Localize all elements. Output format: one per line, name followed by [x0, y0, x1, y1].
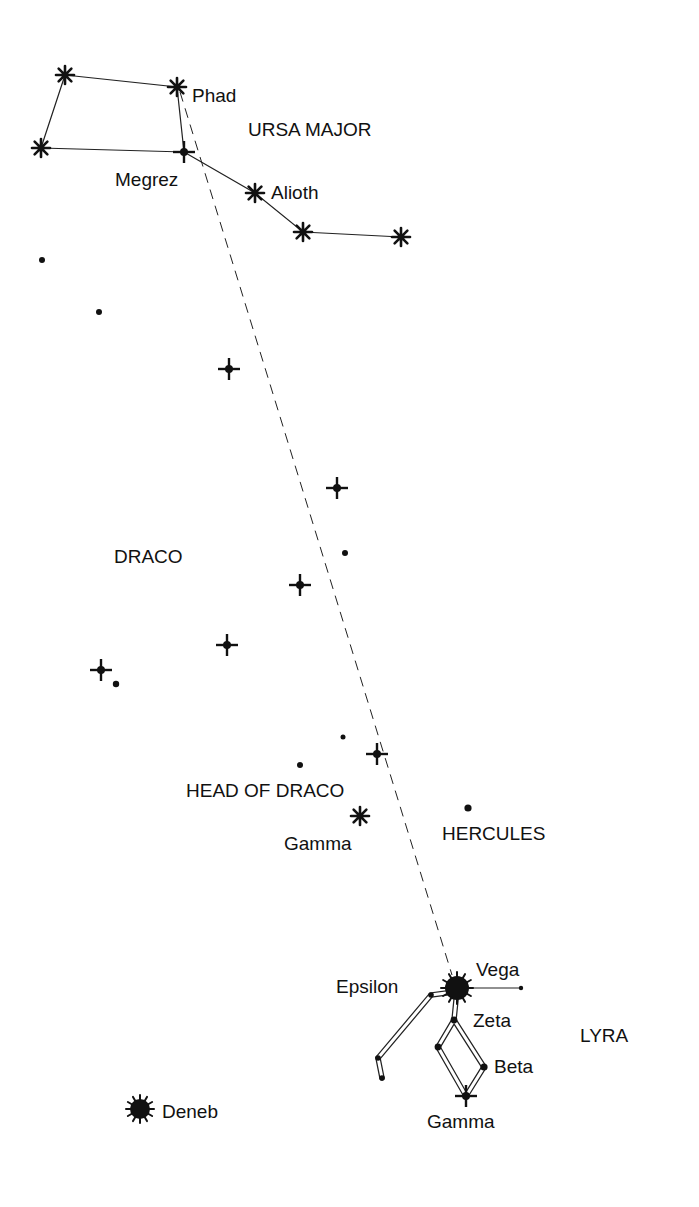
- asterisk-stars: [32, 66, 410, 825]
- label-beta: Beta: [494, 1056, 534, 1077]
- label-vega: Vega: [476, 959, 520, 980]
- hercules-dot-star-icon: [464, 804, 471, 811]
- draco-star-a-star-icon: [218, 358, 240, 380]
- phad-star-icon: [168, 78, 186, 96]
- label-epsilon: Epsilon: [336, 976, 398, 997]
- label-lyra: LYRA: [580, 1025, 629, 1046]
- dot-2-star-icon: [96, 309, 102, 315]
- dot-4-star-icon: [113, 681, 119, 687]
- deneb-star-icon: [126, 1095, 154, 1123]
- label-phad: Phad: [192, 85, 236, 106]
- lyra-delta-dot-star-icon: [435, 1044, 442, 1051]
- epsilon-dot-star-icon: [428, 992, 434, 998]
- ursa-major-star-6-star-icon: [294, 223, 312, 241]
- lyra-east-dot-star-icon: [519, 986, 523, 990]
- megrez-star-icon: [173, 141, 195, 163]
- ursa-major-star-1-star-icon: [56, 66, 74, 84]
- ursa-major-star-3-star-icon: [32, 139, 50, 157]
- label-draco: DRACO: [114, 546, 183, 567]
- alioth-star-icon: [246, 184, 264, 202]
- draco-star-c-star-icon: [289, 574, 311, 596]
- label-hercules: HERCULES: [442, 823, 545, 844]
- head-of-draco-star-star-icon: [366, 743, 388, 765]
- label-lyra-gamma: Gamma: [427, 1111, 495, 1132]
- label-megrez: Megrez: [115, 169, 178, 190]
- draco-star-e-star-icon: [90, 659, 112, 681]
- star-chart: URSA MAJOR DRACO HEAD OF DRACO HERCULES …: [0, 0, 699, 1207]
- lyra-west-dot-2-star-icon: [379, 1075, 385, 1081]
- constellation-labels: URSA MAJOR DRACO HEAD OF DRACO HERCULES …: [114, 119, 629, 1046]
- label-head-of-draco: HEAD OF DRACO: [186, 780, 344, 801]
- dot-6-star-icon: [297, 762, 303, 768]
- vega-star-icon: [441, 972, 473, 1004]
- label-ursa-major: URSA MAJOR: [248, 119, 372, 140]
- dot-1-star-icon: [39, 257, 45, 263]
- dot-3-star-icon: [342, 550, 348, 556]
- lyra-west-dot-1-star-icon: [375, 1055, 381, 1061]
- zeta-dot-star-icon: [451, 1017, 458, 1024]
- draco-star-b-star-icon: [326, 477, 348, 499]
- dot-5-star-icon: [341, 735, 346, 740]
- head-of-draco-gamma-star-icon: [351, 807, 369, 825]
- star-labels: Phad Megrez Alioth Gamma Vega Epsilon Ze…: [115, 85, 534, 1132]
- label-zeta: Zeta: [473, 1010, 511, 1031]
- draco-star-d-star-icon: [216, 634, 238, 656]
- cross-stars: [90, 141, 477, 1107]
- label-deneb: Deneb: [162, 1101, 218, 1122]
- lyra-double-lines: [378, 990, 484, 1096]
- beta-dot-star-icon: [480, 1063, 487, 1070]
- label-alioth: Alioth: [271, 182, 319, 203]
- ursa-major-star-7-star-icon: [392, 228, 410, 246]
- label-draco-gamma: Gamma: [284, 833, 352, 854]
